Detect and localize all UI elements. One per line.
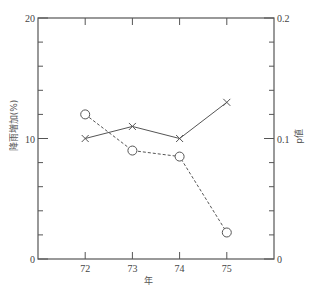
series-layer (81, 99, 232, 237)
x-tick-label: 74 (175, 263, 185, 274)
data-point-circle-marker (222, 228, 231, 237)
data-point-x-marker (223, 99, 230, 106)
y-axis-label-right: p値 (293, 129, 304, 144)
x-tick-label: 75 (222, 263, 232, 274)
y-tick-label-left: 10 (25, 134, 35, 145)
plot-border (38, 18, 274, 259)
data-point-x-marker (176, 135, 183, 142)
x-axis-label: 年 (144, 275, 153, 286)
data-point-x-marker (129, 123, 136, 130)
series-line-rain-increase (85, 102, 227, 138)
y-tick-label-right: 0 (277, 254, 282, 265)
y-axis-label-left: 降雨増加(%) (8, 100, 19, 152)
tick-labels: 727374750102000.10.2 (25, 13, 290, 274)
data-point-circle-marker (81, 110, 90, 119)
data-point-circle-marker (128, 146, 137, 155)
chart: 727374750102000.10.2 年 降雨増加(%) p値 (0, 0, 312, 293)
x-tick-label: 73 (127, 263, 137, 274)
x-tick-label: 72 (80, 263, 90, 274)
plot-frame (38, 18, 274, 259)
axis-ticks (38, 18, 274, 259)
y-tick-label-right: 0.2 (277, 13, 290, 24)
y-tick-label-left: 20 (25, 13, 35, 24)
data-point-circle-marker (175, 152, 184, 161)
y-tick-label-left: 0 (30, 254, 35, 265)
y-tick-label-right: 0.1 (277, 134, 290, 145)
data-point-x-marker (82, 135, 89, 142)
